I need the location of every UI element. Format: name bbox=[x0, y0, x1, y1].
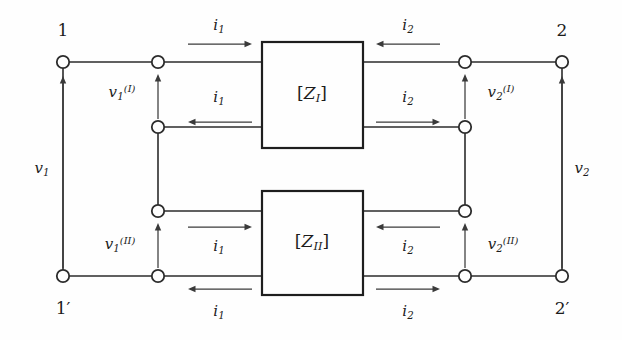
node-left-upper-bottom bbox=[152, 121, 164, 133]
voltage-v2-text: v2 bbox=[574, 161, 589, 178]
current-i2-lower-in-head bbox=[376, 224, 384, 230]
current-i1-upper-ret-text: i1 bbox=[213, 90, 225, 107]
voltage-v2-port-II-head bbox=[462, 223, 468, 231]
current-i1-lower-in-text: i1 bbox=[213, 239, 225, 256]
terminal-2-prime-circle bbox=[556, 270, 568, 282]
terminal-1-prime-label: 1′ bbox=[56, 300, 71, 317]
current-i1-bottom-ret-head bbox=[188, 286, 196, 292]
voltage-v1-head bbox=[60, 76, 66, 84]
voltage-v1-port-II-head bbox=[155, 223, 161, 231]
circuit-svg-canvas bbox=[0, 0, 622, 340]
node-right-lower-bottom bbox=[459, 270, 471, 282]
node-right-upper-bottom bbox=[459, 121, 471, 133]
network-box-group bbox=[262, 42, 363, 295]
terminal-2-prime-label: 2′ bbox=[555, 300, 570, 317]
voltage-v2-port-II-text: v2(II) bbox=[488, 236, 519, 254]
node-right-upper-top bbox=[459, 56, 471, 68]
voltage-v1-text: v1 bbox=[34, 161, 49, 178]
voltage-v1-port-II-text: v1(II) bbox=[105, 236, 136, 254]
current-i2-bottom-ret-text: i2 bbox=[402, 304, 414, 321]
terminal-2-label: 2 bbox=[557, 22, 568, 39]
current-i1-top-in-head bbox=[245, 41, 253, 47]
node-left-upper-top bbox=[152, 56, 164, 68]
circuit-diagram: [ZI][ZII]i1i2i1i2i1i2i1i2v1v2v1(I)v2(I)v… bbox=[0, 0, 622, 340]
current-i2-bottom-ret-head bbox=[433, 286, 441, 292]
voltage-v2-port-I-text: v2(I) bbox=[488, 84, 515, 102]
current-i2-top-in-text: i2 bbox=[402, 18, 414, 35]
current-i1-bottom-ret-text: i1 bbox=[213, 304, 225, 321]
voltage-v1-port-I-head bbox=[155, 74, 161, 82]
node-left-lower-top bbox=[152, 205, 164, 217]
voltage-v1-port-I-text: v1(I) bbox=[109, 84, 136, 102]
terminal-1-prime-circle bbox=[57, 270, 69, 282]
current-i2-upper-ret-head bbox=[433, 119, 441, 125]
current-i1-lower-in-head bbox=[245, 224, 253, 230]
current-i2-top-in-head bbox=[376, 41, 384, 47]
network-box-z2-label: [ZII] bbox=[295, 233, 329, 253]
network-box-z1-label: [ZI] bbox=[297, 85, 327, 105]
current-i2-lower-in-text: i2 bbox=[402, 239, 414, 256]
node-right-lower-top bbox=[459, 205, 471, 217]
current-i2-upper-ret-text: i2 bbox=[402, 90, 414, 107]
terminal-2-circle bbox=[556, 56, 568, 68]
terminal-1-label: 1 bbox=[58, 22, 69, 39]
node-left-lower-bottom bbox=[152, 270, 164, 282]
voltage-v2-port-I-head bbox=[462, 74, 468, 82]
voltage-v2-head bbox=[559, 76, 565, 84]
terminal-1-circle bbox=[57, 56, 69, 68]
current-i1-top-in-text: i1 bbox=[213, 18, 225, 35]
current-i1-upper-ret-head bbox=[188, 119, 196, 125]
